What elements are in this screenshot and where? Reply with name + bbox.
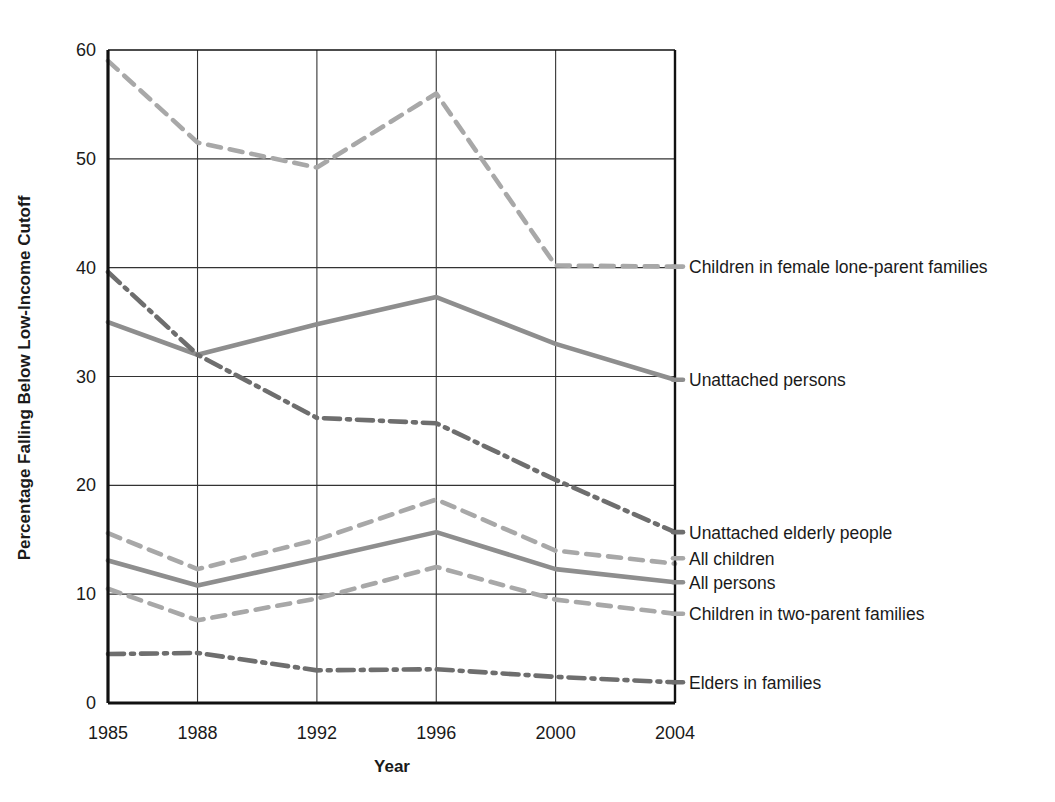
series-inline-labels: Children in female lone-parent familiesU… — [673, 257, 988, 693]
series-label: All children — [689, 549, 775, 569]
x-tick-label: 1985 — [88, 723, 128, 743]
chart-figure: 0102030405060 198519881992199620002004 C… — [0, 0, 1055, 802]
y-tick-label: 40 — [76, 258, 96, 278]
x-axis-title: Year — [374, 757, 410, 776]
x-tick-label: 1988 — [178, 723, 218, 743]
y-tick-label: 50 — [76, 149, 96, 169]
x-tick-label: 1996 — [416, 723, 456, 743]
x-tick-label: 2004 — [655, 723, 695, 743]
x-tick-label: 2000 — [536, 723, 576, 743]
series-line — [108, 272, 675, 532]
series-line — [108, 653, 675, 682]
y-axis-tick-labels: 0102030405060 — [76, 40, 96, 713]
series-line — [108, 499, 675, 569]
y-tick-label: 20 — [76, 475, 96, 495]
y-tick-label: 30 — [76, 367, 96, 387]
series-label: Unattached persons — [689, 370, 846, 390]
series-label: Children in female lone-parent families — [689, 257, 988, 277]
series-label: Elders in families — [689, 673, 822, 693]
y-tick-label: 60 — [76, 40, 96, 60]
x-tick-label: 1992 — [297, 723, 337, 743]
series-line — [108, 297, 675, 380]
series-label: Children in two-parent families — [689, 604, 925, 624]
line-chart: 0102030405060 198519881992199620002004 C… — [0, 0, 1055, 802]
y-tick-label: 0 — [86, 693, 96, 713]
x-axis-tick-labels: 198519881992199620002004 — [88, 723, 695, 743]
series-line — [108, 61, 675, 267]
series-label: Unattached elderly people — [689, 523, 892, 543]
series-label: All persons — [689, 573, 776, 593]
chart-series-group — [108, 61, 675, 682]
y-axis-title: Percentage Falling Below Low-Income Cuto… — [15, 195, 34, 560]
y-tick-label: 10 — [76, 584, 96, 604]
